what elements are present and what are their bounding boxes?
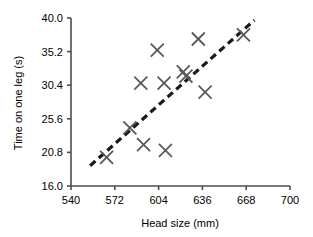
y-axis-title: Time on one leg (s) bbox=[12, 56, 24, 150]
x-tick-label: 700 bbox=[281, 194, 299, 206]
x-tick-label: 636 bbox=[193, 194, 211, 206]
data-point-marker bbox=[137, 138, 150, 151]
data-point-markers bbox=[100, 28, 250, 164]
y-tick-label: 30.4 bbox=[42, 79, 63, 91]
y-tick-label: 35.2 bbox=[42, 46, 63, 58]
trend-line bbox=[90, 20, 254, 166]
x-axis-tick-labels: 540572604636668700 bbox=[62, 194, 299, 206]
x-tick-label: 604 bbox=[149, 194, 167, 206]
data-point-marker bbox=[151, 44, 164, 57]
y-tick-label: 16.0 bbox=[42, 180, 63, 192]
y-axis-tick-labels: 16.020.825.630.435.240.0 bbox=[42, 12, 63, 192]
x-tick-label: 668 bbox=[237, 194, 255, 206]
data-point-marker bbox=[177, 65, 190, 78]
y-tick-label: 25.6 bbox=[42, 113, 63, 125]
data-point-marker bbox=[159, 144, 172, 157]
axis-lines bbox=[67, 18, 290, 190]
plot-canvas: 16.020.825.630.435.240.0 540572604636668… bbox=[0, 0, 313, 237]
y-tick-label: 40.0 bbox=[42, 12, 63, 24]
data-point-marker bbox=[199, 86, 212, 99]
y-tick-label: 20.8 bbox=[42, 146, 63, 158]
data-point-marker bbox=[192, 33, 205, 46]
x-tick-label: 572 bbox=[106, 194, 124, 206]
data-point-marker bbox=[158, 77, 171, 90]
x-axis-title: Head size (mm) bbox=[141, 217, 219, 229]
scatter-plot-figure: 16.020.825.630.435.240.0 540572604636668… bbox=[0, 0, 313, 237]
x-tick-label: 540 bbox=[62, 194, 80, 206]
data-point-marker bbox=[134, 77, 147, 90]
